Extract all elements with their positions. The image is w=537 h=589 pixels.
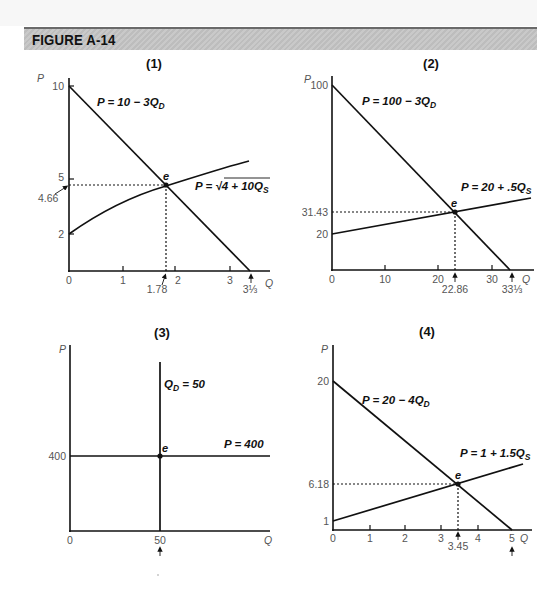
- panel-3: (3) P Q 400 0 50 e QD = 50 P = 400: [48, 325, 272, 556]
- panel-2-e-label: e: [451, 197, 457, 209]
- panel-2-demand-equation: P = 100 − 3QD: [362, 95, 436, 110]
- panel-1-demand-line: [69, 86, 250, 271]
- panel-2-q-intercept-label: 33⅓: [502, 283, 523, 295]
- panel-2-equilibrium-point: [452, 209, 457, 214]
- panel-1-e-label: e: [163, 170, 169, 182]
- panel-1-ytick-5: 5: [58, 171, 64, 183]
- panel-2-xtick-10: 10: [379, 273, 391, 285]
- panel-3-title: (3): [154, 325, 170, 340]
- panel-1-ytick-10: 10: [52, 80, 64, 92]
- panel-2-ytick-100: 100: [310, 79, 328, 91]
- panel-3-xtick-0: 0: [67, 534, 73, 546]
- panel-4-ytick-1: 1: [323, 515, 329, 527]
- panel-1-q-intercept-label: 3⅓: [243, 283, 258, 295]
- panel-1-xtick-0: 0: [66, 274, 72, 286]
- figure-canvas: (1) P Q 10 5 2 4.66 0 1 2 3 1.78 3⅓ e: [0, 0, 537, 589]
- panel-1-supply-equation: P = √4 + 10QS: [195, 180, 269, 195]
- panel-2-ytick-31-43: 31.43: [302, 206, 328, 218]
- panel-3-e-label: e: [162, 442, 168, 454]
- panel-1: (1) P Q 10 5 2 4.66 0 1 2 3 1.78 3⅓ e: [37, 56, 273, 295]
- panel-4-xtick-3: 3: [438, 532, 444, 544]
- panel-2-ytick-20: 20: [316, 228, 328, 240]
- panel-4-ytick-6-18: 6.18: [309, 478, 330, 490]
- panel-3-supply-equation: P = 400: [224, 438, 264, 450]
- panel-2-supply-equation: P = 20 + .5QS: [461, 181, 532, 196]
- panel-3-y-label: P: [59, 343, 66, 355]
- panel-1-x-label: Q: [265, 277, 273, 289]
- panel-3-demand-equation: QD = 50: [164, 378, 206, 393]
- panel-2-supply-line: [332, 198, 531, 234]
- panel-4-q-eq-label: 3.45: [448, 540, 469, 552]
- panel-1-y-label: P: [37, 72, 44, 84]
- panel-4-equilibrium-point: [455, 481, 460, 486]
- panel-4-xtick-4: 4: [475, 532, 481, 544]
- panel-3-ytick-400: 400: [48, 450, 66, 462]
- panel-1-demand-equation: P = 10 − 3QD: [97, 96, 165, 111]
- panel-1-ytick-2: 2: [58, 228, 64, 240]
- panel-4-demand-equation: P = 20 − 4QD: [362, 394, 430, 409]
- panel-4-xtick-0: 0: [330, 532, 336, 544]
- panel-4-xtick-2: 2: [402, 532, 408, 544]
- panel-4-supply-equation: P = 1 + 1.5QS: [460, 447, 531, 462]
- panel-2-xtick-0: 0: [329, 273, 335, 285]
- panel-2: (2) P Q 100 31.43 20 0 10 20 30 22.86 33…: [302, 56, 534, 295]
- panel-4-xtick-1: 1: [367, 532, 373, 544]
- panel-1-title: (1): [146, 56, 162, 71]
- panel-4-e-label: e: [455, 469, 461, 481]
- panel-4-supply-line: [333, 464, 523, 521]
- panel-2-xtick-30: 30: [486, 273, 498, 285]
- stray-dot: [157, 574, 158, 575]
- panel-4-y-label: P: [321, 343, 328, 355]
- panel-4-xtick-5: 5: [509, 532, 515, 544]
- panel-3-x-label: Q: [264, 534, 272, 546]
- panel-4-x-label: Q: [520, 532, 528, 544]
- panel-2-q-eq-label: 22.86: [442, 283, 468, 295]
- panel-1-q-eq-label: 1.78: [147, 283, 168, 295]
- panel-2-demand-line: [332, 85, 510, 270]
- panel-2-title: (2): [423, 56, 439, 71]
- panel-1-xtick-3: 3: [227, 274, 233, 286]
- panel-3-xtick-50: 50: [154, 534, 166, 546]
- panel-1-xtick-2: 2: [175, 274, 181, 286]
- panel-1-supply-curve: [69, 161, 249, 234]
- panel-4-title: (4): [419, 324, 435, 339]
- panel-2-x-label: Q: [522, 273, 530, 285]
- panel-4-ytick-20: 20: [317, 375, 329, 387]
- panel-1-xtick-1: 1: [120, 274, 126, 286]
- panel-1-equilibrium-point: [163, 182, 168, 187]
- panel-3-equilibrium-point: [157, 453, 162, 458]
- panel-4: (4) P Q 20 6.18 1 0 1 2 3 4 5 3.45 e P =…: [309, 324, 532, 556]
